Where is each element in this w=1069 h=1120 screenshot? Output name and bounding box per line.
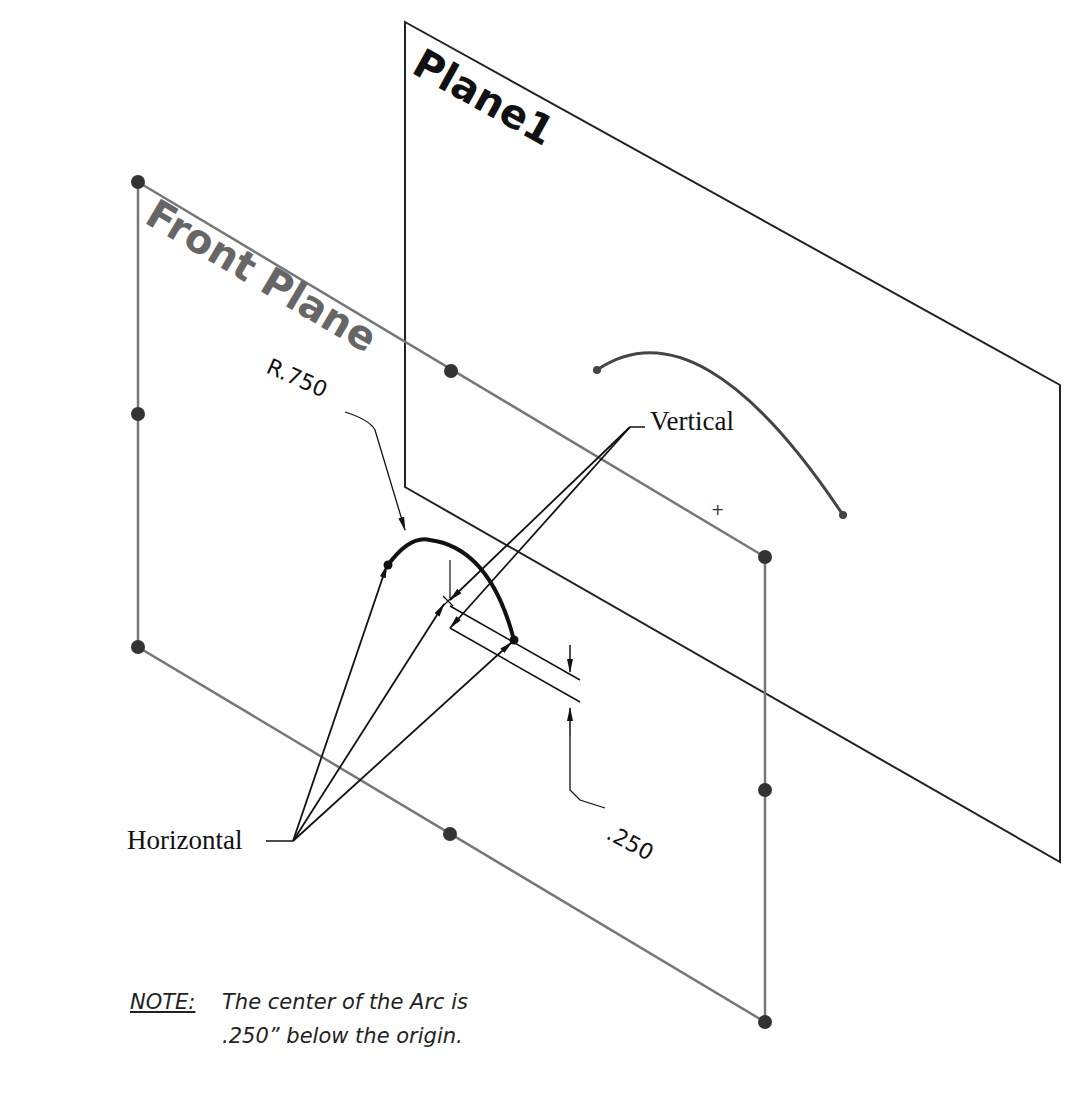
note: NOTE:The center of the Arc is .250” belo… xyxy=(130,985,468,1053)
note-text-2: .250” below the origin. xyxy=(130,1019,468,1053)
note-heading: NOTE: xyxy=(130,985,222,1019)
vertical-leader xyxy=(450,427,630,600)
front-plane-outline xyxy=(138,182,765,1022)
handle-icon[interactable] xyxy=(758,1015,772,1029)
arc-endpoint[interactable] xyxy=(384,561,393,570)
origin-plus-icon: + xyxy=(711,500,724,519)
note-line-1: NOTE:The center of the Arc is xyxy=(130,985,468,1019)
handle-icon[interactable] xyxy=(758,783,772,797)
extension-line xyxy=(450,606,580,680)
plane1-outline xyxy=(405,22,1060,862)
plane1: Plane1 + xyxy=(405,22,1060,862)
offset-leader xyxy=(570,735,605,808)
handle-icon[interactable] xyxy=(131,175,145,189)
front-plane: Front Plane xyxy=(131,175,772,1029)
vertical-callout-label: Vertical xyxy=(650,406,734,436)
horizontal-leader xyxy=(293,642,512,841)
radius-dimension-text[interactable]: R.750 xyxy=(263,354,331,403)
horizontal-callout-label: Horizontal xyxy=(127,825,242,855)
note-text-1: The center of the Arc is xyxy=(222,990,468,1014)
handle-icon[interactable] xyxy=(131,640,145,654)
offset-dimension-text[interactable]: .250 xyxy=(603,820,658,865)
radius-dimension[interactable]: R.750 xyxy=(263,354,405,530)
handle-icon[interactable] xyxy=(443,827,457,841)
horizontal-leader xyxy=(293,604,444,841)
handle-icon[interactable] xyxy=(758,550,772,564)
handle-icon[interactable] xyxy=(131,407,145,421)
radius-leader xyxy=(345,412,405,530)
arc-endpoint xyxy=(839,511,847,519)
horizontal-leader xyxy=(293,565,387,841)
front-plane-label: Front Plane xyxy=(138,190,385,361)
arc-geometry[interactable] xyxy=(388,539,514,640)
arc-endpoint xyxy=(593,366,601,374)
handle-icon[interactable] xyxy=(444,364,458,378)
diagram-canvas: Plane1 + Front Plane xyxy=(0,0,1069,1120)
